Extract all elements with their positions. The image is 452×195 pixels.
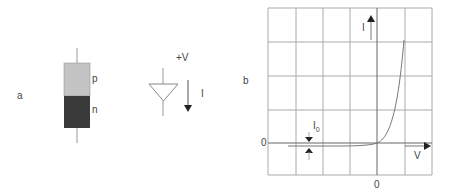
current-arrow-down-icon bbox=[184, 105, 192, 112]
iv-curve bbox=[288, 40, 404, 146]
x-axis-label: V bbox=[414, 150, 421, 161]
saturation-current-subscript: 0 bbox=[316, 126, 320, 133]
y-zero-label: 0 bbox=[261, 137, 267, 148]
n-label: n bbox=[92, 104, 98, 115]
n-region bbox=[64, 96, 90, 128]
panel-a-label: a bbox=[17, 90, 23, 101]
x-zero-label: 0 bbox=[374, 179, 380, 190]
p-label: p bbox=[92, 73, 98, 84]
diode-triangle-icon bbox=[149, 84, 178, 101]
saturation-current-label: I0 bbox=[313, 120, 320, 133]
grid bbox=[268, 8, 432, 175]
panel-b-label: b bbox=[243, 75, 249, 86]
i-arrow-up-icon bbox=[367, 15, 375, 22]
i0-arrow-down-icon bbox=[305, 137, 313, 142]
current-label: I bbox=[201, 88, 204, 99]
diagram-canvas bbox=[0, 0, 452, 195]
y-axis-label: I bbox=[362, 22, 365, 33]
voltage-label: +V bbox=[176, 52, 189, 63]
p-region bbox=[64, 63, 90, 96]
